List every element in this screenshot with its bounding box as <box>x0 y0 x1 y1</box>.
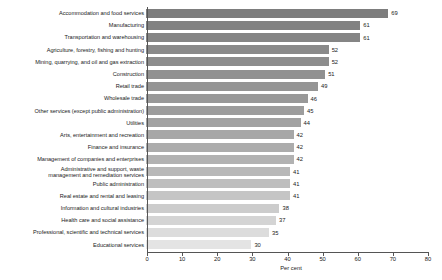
bar <box>146 155 294 164</box>
bar-track: 42 <box>146 153 442 165</box>
bar-category-label: Wholesale trade <box>0 95 146 101</box>
bar-value-label: 52 <box>332 58 338 66</box>
chart-bar-row: Information and cultural industries38 <box>0 202 442 214</box>
chart-bar-row: Administrative and support, waste manage… <box>0 165 442 177</box>
bar <box>146 179 290 188</box>
bar-track: 38 <box>146 202 442 214</box>
x-axis-tick <box>323 252 324 256</box>
x-axis-tick <box>217 252 218 256</box>
bar-track: 41 <box>146 178 442 190</box>
chart-bar-row: Real estate and rental and leasing41 <box>0 190 442 202</box>
bar-category-label: Management of companies and enterprises <box>0 156 146 162</box>
chart-bar-row: Finance and insurance42 <box>0 141 442 153</box>
bar-track: 51 <box>146 68 442 80</box>
bar-track: 46 <box>146 92 442 104</box>
bar <box>146 191 290 200</box>
x-axis-tick <box>393 252 394 256</box>
x-axis-tick-label: 80 <box>425 256 431 262</box>
bar-category-label: Retail trade <box>0 83 146 89</box>
x-axis-tick-label: 70 <box>390 256 396 262</box>
chart-bar-row: Professional, scientific and technical s… <box>0 226 442 238</box>
chart-bar-row: Accommodation and food services69 <box>0 7 442 19</box>
bar-chart: Accommodation and food services69Manufac… <box>0 0 442 280</box>
x-axis-line <box>147 252 429 253</box>
bar-category-label: Accommodation and food services <box>0 10 146 16</box>
bar-track: 42 <box>146 141 442 153</box>
bar <box>146 70 325 79</box>
bar-category-label: Manufacturing <box>0 22 146 28</box>
bar-value-label: 69 <box>391 9 397 17</box>
bar-track: 69 <box>146 7 442 19</box>
bar <box>146 204 279 213</box>
bar-category-label: Agriculture, forestry, fishing and hunti… <box>0 47 146 53</box>
bar-category-label: Transportation and warehousing <box>0 34 146 40</box>
x-axis-tick <box>182 252 183 256</box>
bar-value-label: 52 <box>332 46 338 54</box>
x-axis-tick <box>252 252 253 256</box>
x-axis-tick-label: 60 <box>355 256 361 262</box>
x-axis-title: Per cent <box>0 265 442 271</box>
bar-track: 61 <box>146 31 442 43</box>
chart-bar-row: Educational services30 <box>0 239 442 251</box>
chart-bar-row: Construction51 <box>0 68 442 80</box>
bar-value-label: 41 <box>293 168 299 176</box>
bar-value-label: 49 <box>321 82 327 90</box>
bar-category-label: Utilities <box>0 120 146 126</box>
chart-bar-row: Wholesale trade46 <box>0 92 442 104</box>
bar-track: 35 <box>146 226 442 238</box>
bar-category-label: Real estate and rental and leasing <box>0 193 146 199</box>
chart-bar-row: Arts, entertainment and recreation42 <box>0 129 442 141</box>
bar-value-label: 44 <box>304 119 310 127</box>
bar <box>146 21 360 30</box>
bar-category-label: Construction <box>0 71 146 77</box>
bar-track: 42 <box>146 129 442 141</box>
x-axis-tick <box>147 252 148 256</box>
x-axis-tick <box>428 252 429 256</box>
bar-track: 52 <box>146 44 442 56</box>
x-axis-tick-label: 30 <box>249 256 255 262</box>
bar <box>146 57 329 66</box>
chart-bar-row: Agriculture, forestry, fishing and hunti… <box>0 44 442 56</box>
bar-track: 49 <box>146 80 442 92</box>
bar-value-label: 41 <box>293 180 299 188</box>
bar <box>146 9 388 18</box>
chart-bar-row: Public administration41 <box>0 178 442 190</box>
bar-value-label: 38 <box>282 204 288 212</box>
x-axis-tick-label: 50 <box>319 256 325 262</box>
bar-category-label: Health care and social assistance <box>0 217 146 223</box>
bar-track: 30 <box>146 239 442 251</box>
chart-bar-row: Retail trade49 <box>0 80 442 92</box>
bar-track: 41 <box>146 190 442 202</box>
bar <box>146 82 318 91</box>
chart-bar-row: Other services (except public administra… <box>0 105 442 117</box>
x-axis-tick-label: 40 <box>284 256 290 262</box>
bar-value-label: 51 <box>328 70 334 78</box>
bar <box>146 94 308 103</box>
bar-track: 37 <box>146 214 442 226</box>
bar <box>146 130 294 139</box>
bar <box>146 167 290 176</box>
bar-track: 45 <box>146 105 442 117</box>
bar <box>146 45 329 54</box>
bar-value-label: 42 <box>297 155 303 163</box>
bar-value-label: 61 <box>363 34 369 42</box>
x-axis-tick-label: 20 <box>214 256 220 262</box>
bar <box>146 216 276 225</box>
chart-bar-row: Mining, quarrying, and oil and gas extra… <box>0 56 442 68</box>
bar-value-label: 42 <box>297 143 303 151</box>
bar-value-label: 30 <box>254 241 260 249</box>
bar-value-label: 42 <box>297 131 303 139</box>
bar <box>146 106 304 115</box>
chart-bar-rows: Accommodation and food services69Manufac… <box>0 7 442 251</box>
bar-track: 41 <box>146 165 442 177</box>
bar-value-label: 61 <box>363 21 369 29</box>
chart-bar-row: Manufacturing61 <box>0 19 442 31</box>
chart-bar-row: Utilities44 <box>0 117 442 129</box>
bar-value-label: 46 <box>311 95 317 103</box>
x-axis-tick-label: 10 <box>179 256 185 262</box>
bar-category-label: Arts, entertainment and recreation <box>0 132 146 138</box>
bar-category-label: Public administration <box>0 181 146 187</box>
bar-category-label: Educational services <box>0 242 146 248</box>
bar-track: 61 <box>146 19 442 31</box>
x-axis-tick-label: 0 <box>145 256 148 262</box>
